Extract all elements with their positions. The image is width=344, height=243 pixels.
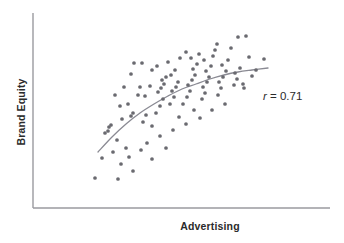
data-point (205, 80, 209, 84)
data-point (126, 102, 130, 106)
data-point (155, 64, 159, 68)
correlation-value: 0.71 (280, 90, 302, 102)
data-point (150, 68, 154, 72)
data-point (189, 56, 193, 60)
data-point (116, 177, 120, 181)
data-point (144, 113, 148, 117)
data-point (200, 97, 204, 101)
data-point (177, 115, 181, 119)
data-point (197, 52, 201, 56)
data-point (115, 138, 119, 142)
data-point (192, 108, 196, 112)
data-point (136, 93, 140, 97)
data-point (186, 83, 190, 87)
data-point (164, 75, 168, 79)
data-point (193, 73, 197, 77)
plot-canvas (0, 0, 344, 243)
trend-line (98, 68, 268, 152)
data-point (221, 75, 225, 79)
data-point (119, 162, 123, 166)
data-point (178, 56, 182, 60)
data-point (209, 64, 213, 68)
data-point (139, 148, 143, 152)
data-point (216, 93, 220, 97)
data-point (204, 69, 208, 73)
data-point (191, 67, 195, 71)
data-point (254, 68, 258, 72)
data-point (219, 86, 223, 90)
data-point (236, 35, 240, 39)
data-point (224, 69, 228, 73)
data-point (124, 146, 128, 150)
data-point (148, 84, 152, 88)
data-point (150, 124, 154, 128)
data-point (213, 48, 217, 52)
data-point (217, 80, 221, 84)
data-point-group (93, 34, 266, 181)
correlation-equals: = (267, 90, 280, 102)
data-point (111, 150, 115, 154)
data-point (184, 50, 188, 54)
data-point (229, 46, 233, 50)
data-point (150, 157, 154, 161)
data-point (138, 85, 142, 89)
data-point (132, 61, 136, 65)
data-point (100, 156, 104, 160)
data-point (172, 95, 176, 99)
data-point (233, 71, 237, 75)
data-point (176, 80, 180, 84)
data-point (223, 102, 227, 106)
data-point (184, 122, 188, 126)
data-point (241, 82, 245, 86)
data-point (168, 102, 172, 106)
correlation-annotation: r = 0.71 (263, 90, 302, 102)
data-point (174, 85, 178, 89)
data-point (131, 111, 135, 115)
data-point (185, 95, 189, 99)
data-point (166, 60, 170, 64)
data-point (203, 91, 207, 95)
axis-lines (33, 13, 330, 208)
data-point (220, 63, 224, 67)
data-point (160, 78, 164, 82)
data-point (169, 73, 173, 77)
data-point (262, 57, 266, 61)
data-point (143, 94, 147, 98)
data-point (198, 116, 202, 120)
data-point (235, 77, 239, 81)
data-point (127, 155, 131, 159)
data-point (190, 78, 194, 82)
x-axis-label: Advertising (150, 220, 270, 232)
data-point (156, 90, 160, 94)
data-point (188, 89, 192, 93)
data-point (113, 93, 117, 97)
data-point (141, 120, 145, 124)
data-point (170, 89, 174, 93)
data-point (173, 68, 177, 72)
data-point (145, 141, 149, 145)
data-point (122, 85, 126, 89)
data-point (232, 83, 236, 87)
data-point (195, 62, 199, 66)
data-point (154, 111, 158, 115)
data-point (118, 104, 122, 108)
data-point (131, 169, 135, 173)
data-point (250, 74, 254, 78)
data-point (210, 108, 214, 112)
data-point (93, 176, 97, 180)
data-point (158, 104, 162, 108)
data-point (129, 72, 133, 76)
data-point (247, 55, 251, 59)
data-point (202, 58, 206, 62)
scatter-plot-figure: Brand Equity Advertising r = 0.71 (0, 0, 344, 243)
data-point (159, 86, 163, 90)
data-point (226, 58, 230, 62)
data-point (164, 146, 168, 150)
data-point (109, 123, 113, 127)
data-point (242, 86, 246, 90)
data-point (207, 75, 211, 79)
data-point (211, 54, 215, 58)
data-point (162, 82, 166, 86)
data-point (181, 102, 185, 106)
data-point (238, 66, 242, 70)
